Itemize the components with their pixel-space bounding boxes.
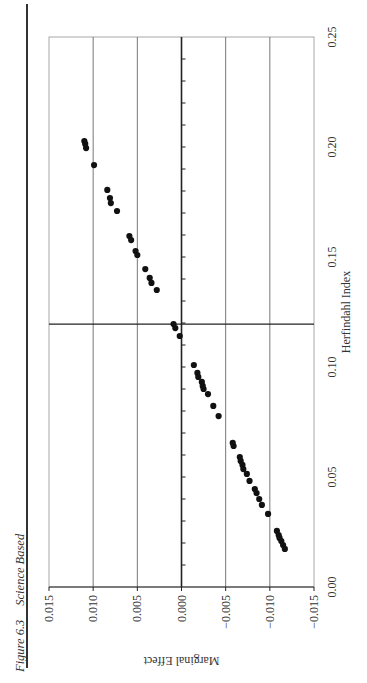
data-point [205, 391, 211, 397]
data-point [259, 502, 265, 508]
scatter-chart: 0.0150.0100.0050.000−0.005−0.010−0.0150.… [0, 0, 367, 683]
data-point [142, 266, 148, 272]
data-point [172, 325, 178, 331]
data-point [244, 471, 250, 477]
data-point [216, 413, 222, 419]
x-tick-label: 0.25 [325, 27, 339, 48]
y-tick-label: −0.005 [219, 595, 233, 629]
y-tick-label: 0.010 [86, 595, 100, 622]
data-point [177, 333, 183, 339]
y-tick-label: −0.010 [263, 595, 277, 629]
data-point [128, 237, 134, 243]
data-point [265, 511, 271, 517]
data-point [191, 362, 197, 368]
data-point [231, 443, 237, 449]
data-point [91, 162, 97, 168]
data-point [104, 187, 110, 193]
data-point [148, 280, 154, 286]
data-point [195, 374, 201, 380]
x-tick-label: 0.15 [325, 247, 339, 268]
y-tick-label: 0.000 [175, 595, 189, 622]
data-point [108, 200, 114, 206]
data-point [83, 145, 89, 151]
data-point [154, 287, 160, 293]
data-point [200, 386, 206, 392]
data-point [282, 546, 288, 552]
y-tick-label: −0.015 [307, 595, 321, 629]
y-axis-title: Marginal Effect [143, 654, 220, 668]
data-point [114, 208, 120, 214]
data-point [134, 252, 140, 258]
x-tick-label: 0.05 [325, 467, 339, 488]
x-tick-label: 0.00 [325, 577, 339, 598]
x-tick-label: 0.10 [325, 357, 339, 378]
data-point [246, 478, 252, 484]
data-point [253, 490, 259, 496]
data-point [256, 496, 262, 502]
y-tick-label: 0.015 [42, 595, 56, 622]
x-axis-title: Herfindahl Index [339, 271, 353, 353]
y-tick-label: 0.005 [130, 595, 144, 622]
data-point [210, 403, 216, 409]
x-tick-label: 0.20 [325, 137, 339, 158]
